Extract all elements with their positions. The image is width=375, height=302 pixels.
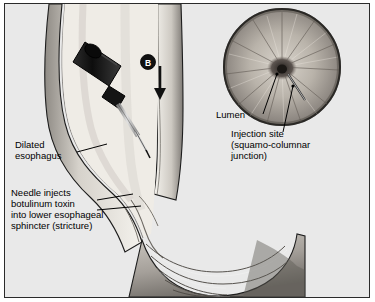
label-lumen: Lumen [216, 109, 245, 120]
label-dilated-esophagus: Dilated esophagus [15, 139, 61, 161]
label-needle-injects: Needle injects botulinum toxin into lowe… [11, 187, 103, 231]
figure-root: B [0, 0, 375, 302]
arrow-badge-label: B [145, 58, 151, 68]
endoscopic-inset [224, 9, 340, 125]
illustration-frame: B [4, 3, 370, 298]
label-injection-site: Injection site (squamo-columnar junction… [231, 128, 310, 161]
